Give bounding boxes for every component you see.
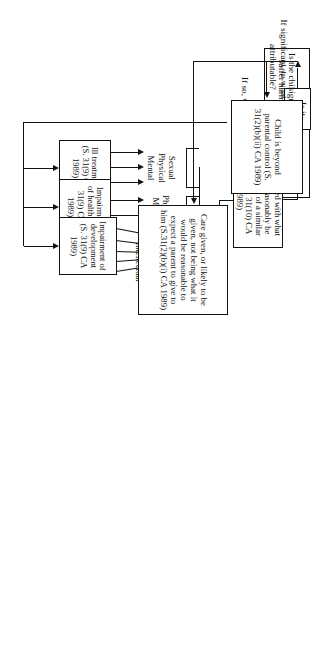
flowchart-stage: Is the child suffering harm or likely to… xyxy=(0,0,323,648)
edge-ill-b xyxy=(111,167,138,168)
edge-to-impairment-health xyxy=(24,207,53,208)
node-beyond-parental-control-label: Child is beyond parental control (S. 31(… xyxy=(250,101,284,193)
edge-attributable-split xyxy=(193,61,298,62)
arrowhead-ill-a xyxy=(138,149,144,155)
node-care-given: Care given, or likely to be given, not b… xyxy=(138,205,228,315)
edge-to-beyond-control xyxy=(266,61,267,93)
node-impairment-development: Impairment of development (S. 31(9) CA 1… xyxy=(59,217,117,275)
edge-significant-onward xyxy=(297,68,298,88)
edge-trunk-left xyxy=(23,122,227,123)
edge-ill-c xyxy=(111,182,138,183)
arrowhead-health-a xyxy=(138,197,144,203)
edge-to-impairment-development xyxy=(24,246,53,247)
edge-dev-c xyxy=(116,251,140,253)
arrowhead-ill-b xyxy=(138,164,144,170)
edge-ill-a xyxy=(111,152,138,153)
node-beyond-parental-control: Child is beyond parental control (S. 31(… xyxy=(231,100,303,194)
arrowhead-ill-c xyxy=(138,179,144,185)
flowchart-canvas: Is the child suffering harm or likely to… xyxy=(0,0,323,648)
arrowhead-care-given xyxy=(191,198,197,204)
edge-to-care-given xyxy=(193,61,194,199)
edge-compared-up xyxy=(282,199,297,200)
arrowhead-beyond-control xyxy=(264,92,270,98)
edge-into-compared xyxy=(219,200,233,201)
edge-trunk-bottom xyxy=(23,122,24,246)
edge-to-ill-treatment xyxy=(24,168,53,169)
edge-health-a xyxy=(111,200,138,201)
node-care-given-label: Care given, or likely to be given, not b… xyxy=(156,206,209,314)
node-impairment-development-label: Impairment of development (S. 31(9) CA 1… xyxy=(67,218,110,274)
